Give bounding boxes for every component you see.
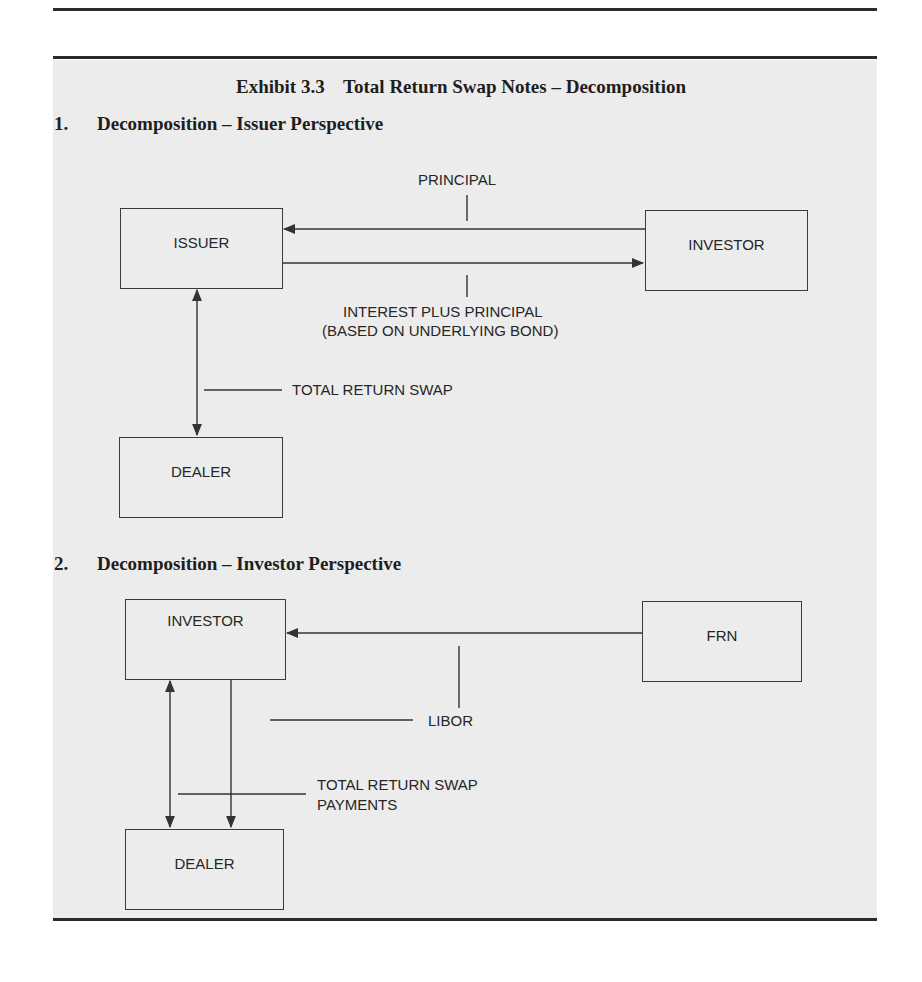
frn-label: FRN [707,627,738,644]
frn-node: FRN [642,601,802,682]
investor-2-label: INVESTOR [167,612,243,629]
dealer-node: DEALER [119,437,283,518]
trs-payments-label-line1: TOTAL RETURN SWAP [317,776,478,794]
trs-label: TOTAL RETURN SWAP [292,381,453,399]
interest-label-line2: (BASED ON UNDERLYING BOND) [322,322,558,340]
section-2-heading: 2.Decomposition – Investor Perspective [54,553,401,575]
principal-label: PRINCIPAL [418,171,496,189]
section-2-title: Decomposition – Investor Perspective [97,553,401,574]
trs-payments-label-line2: PAYMENTS [317,796,397,814]
section-2-number: 2. [54,553,97,575]
dealer-node-2: DEALER [125,829,284,910]
issuer-node: ISSUER [120,208,283,289]
investor-node: INVESTOR [645,210,808,291]
dealer-2-label: DEALER [174,855,234,872]
dealer-label: DEALER [171,463,231,480]
investor-label: INVESTOR [688,236,764,253]
investor-node-2: INVESTOR [125,599,286,680]
issuer-label: ISSUER [174,234,230,251]
libor-label: LIBOR [428,712,473,730]
interest-label-line1: INTEREST PLUS PRINCIPAL [343,303,543,321]
